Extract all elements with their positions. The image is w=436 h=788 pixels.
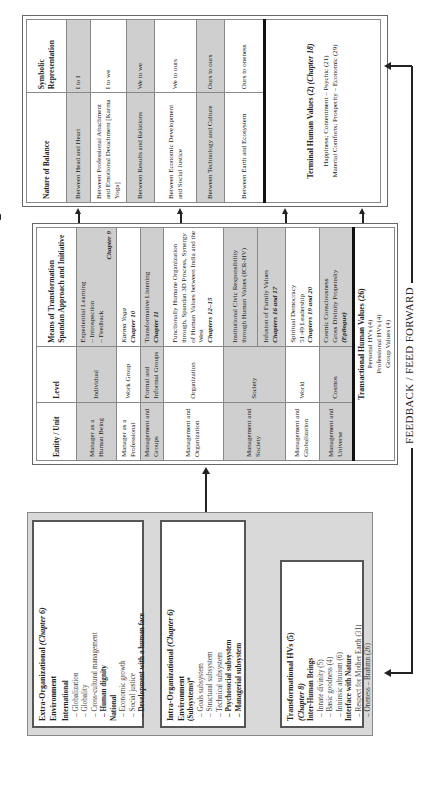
list-item: – Basic goodness (4) bbox=[326, 567, 336, 721]
table-row: Between Technology and Culture Ours to o… bbox=[197, 20, 225, 203]
section-inter-human: Inter-Human Beings bbox=[307, 567, 317, 721]
list-item: – Globalization bbox=[72, 527, 82, 721]
chapter-ref: Chapters 12–15 bbox=[206, 231, 215, 343]
summary-line: Personal HVs (4) bbox=[366, 231, 375, 457]
cell-symbol: We to ours bbox=[155, 20, 197, 93]
terminal-line: Material Comforts; Prosperity – Economic… bbox=[331, 23, 340, 199]
means-text: Cosmic Consciousness Gross Divinity Prop… bbox=[322, 231, 340, 343]
chapter-ref: Chapter 10 bbox=[129, 231, 138, 343]
terminal-values-cell: Terminal Human Values (2) (Chapter 18) H… bbox=[265, 20, 381, 203]
transformational-title: Transformational HVs (5) bbox=[286, 567, 297, 721]
feedback-line-left bbox=[390, 673, 412, 675]
table-row-summary: Transactional Human Values (26) Personal… bbox=[353, 228, 395, 461]
cell-means: Institutional Civic Responsibility throu… bbox=[223, 228, 257, 347]
cell-balance: Between Professional Attachment and Emot… bbox=[91, 93, 127, 203]
list-item: – Globality bbox=[81, 527, 91, 721]
extra-organizational-box: Extra-Organizational (Chapter 6) Environ… bbox=[32, 520, 144, 728]
list-item: – Economic growth bbox=[119, 527, 129, 721]
feedback-label: FEEDBACK / FEED FORWARD bbox=[403, 283, 415, 448]
cell-means: Functionally Humane Organization through… bbox=[163, 228, 223, 347]
header-balance: Nature of Balance bbox=[27, 93, 67, 203]
cell-means: Cosmic Consciousness Gross Divinity Prop… bbox=[319, 228, 353, 347]
table-row: Management and Universe Cosmos Cosmic Co… bbox=[319, 228, 353, 461]
cell-means: Spiritual Democracy 51:49 LeadershipChap… bbox=[285, 228, 319, 347]
transformational-hvs-box: Transformational HVs (5) (Chapter 8) Int… bbox=[280, 560, 364, 728]
chapter-ref: Chapters 19 and 20 bbox=[306, 231, 315, 343]
table-row-terminal: Terminal Human Values (2) (Chapter 18) H… bbox=[265, 20, 381, 203]
cell-balance: Between Results and Relations bbox=[127, 93, 155, 203]
arrow-up-icon bbox=[384, 669, 391, 677]
list-item: – Managerial subsystem bbox=[235, 527, 245, 721]
section-interface-nature: Interface with Nature bbox=[345, 567, 355, 721]
means-text: Spiritual Democracy 51:49 Leadership bbox=[289, 231, 307, 343]
cell-entity: Management and Society bbox=[223, 402, 285, 460]
list-item: – Development with a human face bbox=[138, 527, 148, 721]
list-item: – Innate divinity (5) bbox=[317, 567, 327, 721]
arrow-right-icon bbox=[75, 208, 81, 214]
table-row: Management and Globalization World Spiri… bbox=[285, 228, 319, 461]
transformation-table: Entity / Unit Level Means of Transformat… bbox=[36, 227, 395, 461]
table-row: Between Professional Attachment and Emot… bbox=[91, 20, 127, 203]
cell-symbol: Ours to oneness bbox=[225, 20, 265, 93]
terminal-title: Terminal Human Values (2) bbox=[306, 86, 315, 178]
table-row: Between Head and Heart I to I bbox=[67, 20, 91, 203]
means-text: Karma Yoga bbox=[120, 231, 129, 343]
cell-level: World bbox=[285, 346, 319, 402]
arrow-up-icon bbox=[384, 62, 391, 70]
extra-org-subtitle: Environment bbox=[49, 527, 60, 721]
cell-entity: Manager as a Human Being bbox=[77, 402, 117, 460]
cell-entity: Management and Groups bbox=[141, 402, 164, 460]
cell-balance: Between Head and Heart bbox=[67, 93, 91, 203]
cell-symbol: I to we bbox=[91, 20, 127, 93]
table-row: Management and Groups Formal and Informa… bbox=[141, 228, 164, 461]
intra-org-chapter: (Chapter 6) bbox=[166, 609, 175, 647]
list-item: – Technical subsystem bbox=[216, 527, 226, 721]
balance-text: Between Professional Attachment and Emot… bbox=[95, 99, 121, 199]
header-means: Means of Transformation Spandan Approach… bbox=[37, 228, 77, 347]
intra-org-title: Intra-Organizational bbox=[166, 649, 175, 721]
cell-balance: Between Economic Development and Social … bbox=[155, 93, 197, 203]
connector-line bbox=[180, 213, 182, 223]
header-entity: Entity / Unit bbox=[37, 402, 77, 460]
connector-line bbox=[205, 472, 207, 512]
list-item: – Intrinsic altruism (6) bbox=[336, 567, 346, 721]
cell-level: Individual bbox=[77, 346, 117, 402]
list-item: – Human dignity bbox=[100, 527, 110, 721]
connector-line bbox=[285, 213, 287, 223]
list-item: – Cross-cultural management bbox=[91, 527, 101, 721]
table-row: Between Earth and Ecosystem Ours to onen… bbox=[225, 20, 265, 203]
arrow-right-icon bbox=[282, 208, 288, 214]
arrow-right-icon bbox=[359, 208, 365, 214]
cell-level: Work Group bbox=[117, 346, 141, 402]
diagram-stage: Extra-Organizational (Chapter 6) Environ… bbox=[0, 0, 436, 788]
balance-table-frame: Nature of Balance Symbolic Representatio… bbox=[22, 15, 388, 207]
section-international: International bbox=[62, 527, 72, 721]
cell-entity: Management and Organization bbox=[163, 402, 223, 460]
cell-means: Experiential Learning – Introspection – … bbox=[77, 228, 117, 347]
cell-level: Cosmos bbox=[319, 346, 353, 402]
means-text: Infusion of Family Values bbox=[262, 231, 271, 343]
transformational-chapter: (Chapter 8) bbox=[297, 683, 306, 721]
list-item: – Psychosocial subsystem bbox=[225, 527, 235, 721]
section-national: National bbox=[110, 527, 120, 721]
terminal-chapter: (Chapter 18) bbox=[306, 43, 315, 84]
table-row: Management and Organization Organization… bbox=[163, 228, 223, 461]
chapter-ref: Chapters 16 and 17 bbox=[271, 231, 280, 343]
cell-means: Transformative ListeningChapter 11 bbox=[141, 228, 164, 347]
intra-org-subtitle: Environment bbox=[177, 527, 188, 721]
extra-org-chapter: (Chapter 6) bbox=[38, 607, 47, 645]
header-symbol: Symbolic Representation bbox=[27, 20, 67, 93]
cell-means: Infusion of Family ValuesChapters 16 and… bbox=[257, 228, 285, 347]
table-row: Between Economic Development and Social … bbox=[155, 20, 197, 203]
cell-balance: Between Earth and Ecosystem bbox=[225, 93, 265, 203]
terminal-line: Happiness; Contentment – Psychic (21) bbox=[322, 23, 331, 199]
cell-symbol: I to I bbox=[67, 20, 91, 93]
feedback-line-right bbox=[390, 66, 412, 68]
cell-balance: Between Technology and Culture bbox=[197, 93, 225, 203]
balance-table: Nature of Balance Symbolic Representatio… bbox=[26, 19, 381, 203]
list-item: – Structural subsystem bbox=[206, 527, 216, 721]
cell-symbol: We to we bbox=[127, 20, 155, 93]
summary-line: Group Values (4) bbox=[384, 231, 393, 457]
header-level: Level bbox=[37, 346, 77, 402]
cell-entity: Manager as a Professional bbox=[117, 402, 141, 460]
